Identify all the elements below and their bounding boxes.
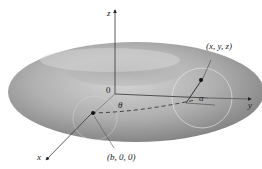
center-point-label: (b, 0, 0) (107, 152, 136, 162)
torus-figure: z y x 0 θ α (x, y, z) (b, 0, 0) (0, 0, 262, 169)
theta-label: θ (118, 100, 123, 110)
surface-point (199, 78, 203, 82)
surface-point-label: (x, y, z) (206, 41, 232, 51)
alpha-label: α (199, 93, 204, 103)
y-axis-label: y (247, 100, 252, 110)
z-axis-label: z (106, 8, 111, 18)
center-point (91, 111, 95, 115)
x-axis-label: x (36, 152, 41, 162)
torus-surface (8, 42, 262, 142)
origin-label: 0 (106, 85, 111, 95)
